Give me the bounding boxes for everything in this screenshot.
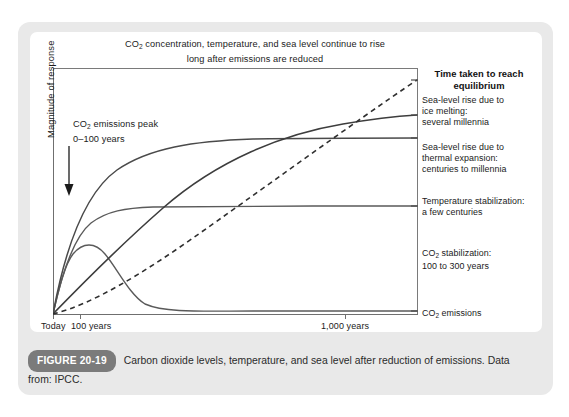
legend-item-co2-emissions: CO2 emissions: [422, 308, 548, 321]
figure-root: CO2 concentration, temperature, and sea …: [0, 0, 569, 417]
legend-title: Time taken to reach equilibrium: [422, 68, 536, 91]
legend-title-line2: equilibrium: [453, 80, 504, 91]
legend-title-line1: Time taken to reach: [435, 68, 524, 79]
legend-co2-rest: stabilization:: [439, 248, 491, 258]
legend-item-ice-melting: Sea-level rise due to ice melting: sever…: [422, 95, 548, 129]
annotation-line1: CO2 emissions peak: [73, 119, 158, 129]
chart-title-line2: long after emissions are reduced: [187, 54, 324, 64]
annotation-line2: 0–100 years: [73, 134, 125, 144]
x-tick-100-years: [80, 315, 81, 319]
x-tick-label-1000-years: 1,000 years: [321, 321, 369, 331]
figure-badge: FIGURE 20-19: [28, 350, 116, 372]
chart-title-rest: concentration, temperature, and sea leve…: [143, 39, 385, 49]
curve-co2-emissions: [53, 245, 417, 314]
legend-item-ice-melting-line1: Sea-level rise due to: [422, 95, 548, 106]
legend-item-thermal-expansion-line2: thermal expansion:: [422, 153, 548, 164]
legend-item-temperature-stabilization-line1: Temperature stabilization:: [422, 196, 548, 207]
legend-item-thermal-expansion-line1: Sea-level rise due to: [422, 142, 548, 153]
legend-item-co2-stabilization: CO2 stabilization: 100 to 300 years: [422, 248, 548, 272]
curve-temperature-stabilization: [53, 138, 417, 314]
annotation-rest: emissions peak: [91, 119, 158, 129]
legend-item-co2-stabilization-line2: 100 to 300 years: [422, 261, 548, 272]
legend-item-ice-melting-line3: several millennia: [422, 117, 548, 128]
legend-item-thermal-expansion-line3: centuries to millennia: [422, 164, 548, 175]
x-tick-label-100-years: 100 years: [71, 321, 111, 331]
legend-item-temperature-stabilization: Temperature stabilization: a few centuri…: [422, 196, 548, 218]
chart-title: CO2 concentration, temperature, and sea …: [90, 38, 420, 66]
legend: Time taken to reach equilibrium Sea-leve…: [422, 68, 542, 91]
legend-item-ice-melting-line2: ice melting:: [422, 106, 548, 117]
x-tick-today: [53, 315, 54, 319]
chart-title-co2: CO: [125, 39, 139, 49]
legend-item-thermal-expansion: Sea-level rise due to thermal expansion:…: [422, 142, 548, 176]
legend-co2-emissions-rest: emissions: [439, 308, 481, 318]
x-tick-1000-years: [345, 315, 346, 319]
x-tick-label-today: Today: [41, 321, 66, 331]
figure-card: CO2 concentration, temperature, and sea …: [30, 32, 542, 332]
legend-item-co2-stabilization-line1: CO2 stabilization:: [422, 248, 548, 261]
legend-item-temperature-stabilization-line2: a few centuries: [422, 207, 548, 218]
plot-area: Magnitude of response CO2 emissions peak…: [53, 68, 418, 315]
figure-caption: FIGURE 20-19Carbon dioxide levels, tempe…: [28, 350, 528, 388]
legend-co2-emissions-text: CO: [422, 308, 435, 318]
annotation-co2-peak: CO2 emissions peak 0–100 years: [73, 118, 158, 145]
chart-title-line1: CO2 concentration, temperature, and sea …: [125, 39, 385, 49]
curve-ice-melting: [53, 80, 417, 314]
legend-co2-text: CO: [422, 248, 435, 258]
curve-layer: [53, 68, 418, 315]
annotation-co2: CO: [73, 119, 87, 129]
legend-item-co2-emissions-line1: CO2 emissions: [422, 308, 548, 321]
